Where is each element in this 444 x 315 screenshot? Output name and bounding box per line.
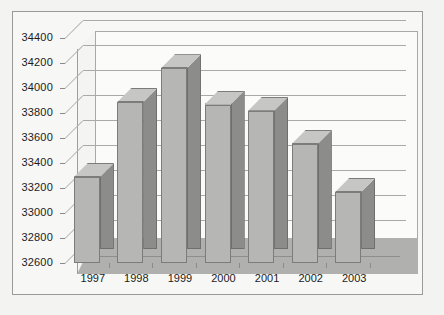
- chart-frame: 3440034200340003380033600334003320033000…: [12, 11, 423, 295]
- x-axis-tick: [239, 263, 240, 268]
- x-axis-tick-label: 2002: [289, 272, 333, 284]
- x-axis-tick: [283, 263, 284, 268]
- y-axis-tick: [60, 88, 65, 89]
- bar-face: [74, 177, 100, 263]
- x-axis-tick-label: 1997: [71, 272, 115, 284]
- x-axis-tick: [109, 263, 110, 268]
- bar-side: [143, 88, 157, 249]
- side-wall-gridline: [65, 20, 84, 39]
- gridline: [83, 45, 406, 46]
- y-axis-tick-label: 34200: [0, 56, 53, 68]
- x-axis-tick: [370, 263, 371, 268]
- bar-2002: [292, 130, 318, 263]
- bar-face: [161, 68, 187, 263]
- x-axis-tick: [152, 263, 153, 268]
- y-axis-tick: [60, 213, 65, 214]
- x-axis-tick-label: 1998: [114, 272, 158, 284]
- bar-face: [117, 102, 143, 263]
- bar-side: [187, 54, 201, 249]
- bar-side: [274, 97, 288, 249]
- y-axis-tick-label: 33800: [0, 106, 53, 118]
- bar-face: [248, 111, 274, 263]
- y-axis-tick: [60, 138, 65, 139]
- bar-side: [231, 91, 245, 250]
- y-axis-tick-label: 32600: [0, 256, 53, 268]
- y-axis-tick: [60, 163, 65, 164]
- y-axis-tick-label: 32800: [0, 231, 53, 243]
- y-axis-tick-label: 33400: [0, 156, 53, 168]
- x-axis-tick: [326, 263, 327, 268]
- bar-2001: [248, 97, 274, 263]
- y-axis-tick: [60, 188, 65, 189]
- x-axis-tick-label: 2000: [202, 272, 246, 284]
- y-axis-tick-label: 34400: [0, 31, 53, 43]
- chart-screenshot: 3440034200340003380033600334003320033000…: [0, 0, 444, 315]
- bar-side: [100, 163, 114, 249]
- bar-face: [205, 105, 231, 264]
- bar-face: [335, 192, 361, 263]
- x-axis-tick-label: 2001: [245, 272, 289, 284]
- bar-side: [318, 130, 332, 249]
- y-axis-tick-label: 33200: [0, 181, 53, 193]
- x-axis-tick: [196, 263, 197, 268]
- y-axis-tick: [60, 63, 65, 64]
- gridline: [83, 20, 406, 21]
- y-axis-tick: [60, 113, 65, 114]
- bar-2003: [335, 178, 361, 263]
- x-axis-tick-label: 2003: [332, 272, 376, 284]
- x-axis-tick-label: 1999: [158, 272, 202, 284]
- y-axis-tick: [60, 238, 65, 239]
- bar-1999: [161, 54, 187, 263]
- bar-2000: [205, 91, 231, 264]
- y-axis-tick: [60, 38, 65, 39]
- y-axis-tick-label: 33000: [0, 206, 53, 218]
- gridline: [83, 70, 406, 71]
- y-axis-tick: [60, 263, 65, 264]
- y-axis-tick-label: 34000: [0, 81, 53, 93]
- bar-face: [292, 144, 318, 263]
- bar-1998: [117, 88, 143, 263]
- y-axis-tick-label: 33600: [0, 131, 53, 143]
- bar-1997: [74, 163, 100, 263]
